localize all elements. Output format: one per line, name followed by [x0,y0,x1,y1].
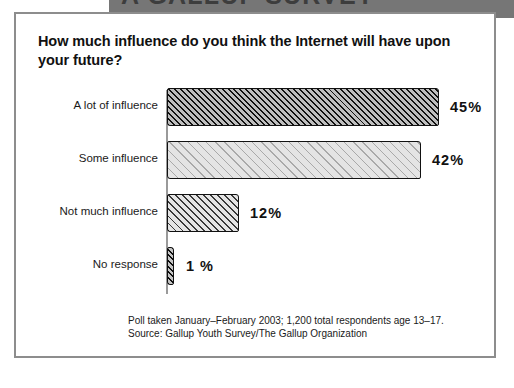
bar-value-label: 42% [432,141,464,179]
footnote-source-line: Source: Gallup Youth Survey/The Gallup O… [128,327,458,340]
bar-wrap [167,141,421,179]
footnote: Poll taken January–February 2003; 1,200 … [128,314,458,340]
bar-value-label: 12% [250,194,282,232]
banner-title-text: A GALLUP SURVEY [121,0,375,8]
table-row: No response 1 % [16,245,498,298]
table-row: Some influence 42% [16,139,498,192]
bar-value-label: 1 % [186,247,214,285]
footnote-poll-line: Poll taken January–February 2003; 1,200 … [128,314,458,327]
bar-value-label: 45% [450,88,482,126]
category-label: A lot of influence [0,98,158,112]
chart-panel: How much influence do you think the Inte… [14,12,496,358]
table-row: Not much influence 12% [16,192,498,245]
plot-area: A lot of influence 45% Some influence 42… [16,86,498,298]
category-label: Some influence [0,151,158,165]
category-label: No response [0,257,158,271]
category-label: Not much influence [0,204,158,218]
bar-no-response [167,247,174,285]
bar-a-lot-of-influence [167,88,439,126]
table-row: A lot of influence 45% [16,86,498,139]
bar-some-influence [167,141,421,179]
bar-wrap [167,88,439,126]
bar-wrap [167,194,239,232]
bar-not-much-influence [167,194,239,232]
bar-wrap [167,247,174,285]
question-text: How much influence do you think the Inte… [38,32,470,70]
